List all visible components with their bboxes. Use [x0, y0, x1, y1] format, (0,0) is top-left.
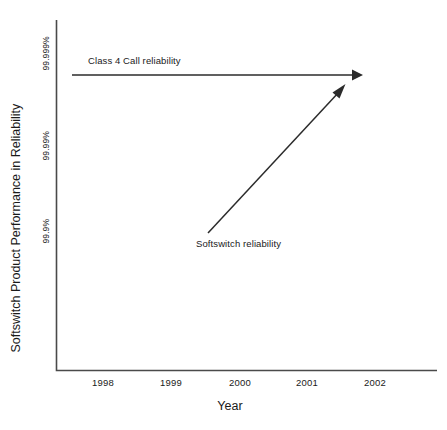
x-tick-label-1998: 1998 — [79, 378, 127, 388]
y-tick-label-9999: 99.99% — [42, 131, 51, 160]
x-tick-label-2000: 2000 — [216, 378, 264, 388]
y-tick-label-999: 99.9% — [42, 219, 51, 244]
y-tick-label-99999: 99.999% — [42, 36, 51, 70]
chart-figure: Softswitch Product Performance in Reliab… — [0, 0, 447, 430]
softswitch-reliability-label: Softswitch reliability — [196, 239, 281, 249]
class4-reliability-arrow — [72, 70, 363, 81]
x-tick-label-2002: 2002 — [351, 378, 399, 388]
class4-reliability-label: Class 4 Call reliability — [88, 56, 181, 66]
chart-axes — [57, 20, 438, 371]
softswitch-reliability-arrow — [208, 84, 346, 233]
y-axis-title: Softswitch Product Performance in Reliab… — [10, 104, 23, 353]
x-axis-title: Year — [150, 400, 310, 413]
x-tick-label-1999: 1999 — [147, 378, 195, 388]
chart-canvas — [0, 0, 447, 430]
x-tick-label-2001: 2001 — [283, 378, 331, 388]
